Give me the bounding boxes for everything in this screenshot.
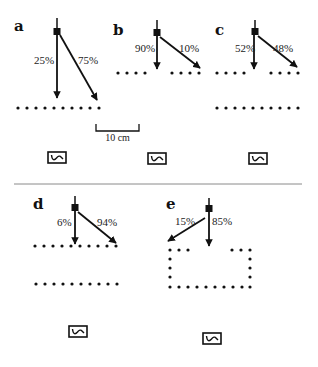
barrier-dots xyxy=(116,71,200,74)
pct-right-e: 85% xyxy=(212,215,232,227)
square-source-icon xyxy=(252,28,259,35)
enclosure-dots xyxy=(168,248,251,288)
pct-right-b: 10% xyxy=(179,42,199,54)
panel-label-d: d xyxy=(33,195,44,213)
figure-canvas: a 25% 75% b 90% 10% c xyxy=(0,0,318,367)
pct-left-c: 52% xyxy=(235,42,255,54)
panel-d: d 6% 94% xyxy=(33,195,119,337)
panel-label-c: c xyxy=(215,21,224,39)
panel-label-b: b xyxy=(113,21,124,39)
pct-right-c: 48% xyxy=(273,42,293,54)
pct-left-a: 25% xyxy=(34,54,54,66)
panel-a: a 25% 75% xyxy=(14,17,101,163)
panel-label-a: a xyxy=(14,17,24,35)
square-source-icon xyxy=(54,28,61,35)
arrow-icon-right xyxy=(60,35,97,100)
pct-left-e: 15% xyxy=(175,215,195,227)
sensor-box-icon xyxy=(249,153,267,164)
scale-bar-label: 10 cm xyxy=(105,132,130,143)
barrier-dots xyxy=(34,282,118,285)
panel-label-e: e xyxy=(166,195,176,213)
barrier-dots xyxy=(215,71,299,74)
barrier-dots xyxy=(33,244,117,247)
pct-right-d: 94% xyxy=(97,216,117,228)
pct-right-a: 75% xyxy=(78,54,98,66)
panel-e: e 15% 85% xyxy=(166,195,252,344)
pct-left-b: 90% xyxy=(135,42,155,54)
pct-left-d: 6% xyxy=(57,216,72,228)
sensor-box-icon xyxy=(48,152,66,163)
sensor-box-icon xyxy=(203,333,221,344)
scale-bar: 10 cm xyxy=(96,124,139,143)
barrier-dots xyxy=(16,106,100,109)
barrier-dots xyxy=(215,106,299,109)
sensor-box-icon xyxy=(69,326,87,337)
sensor-box-icon xyxy=(148,153,166,164)
square-source-icon xyxy=(72,204,79,211)
square-source-icon xyxy=(154,29,161,36)
panel-c: c 52% 48% xyxy=(215,20,300,164)
square-source-icon xyxy=(206,205,213,212)
